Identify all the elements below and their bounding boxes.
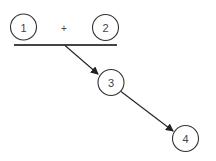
- edge-3-to-4: [121, 92, 173, 132]
- flow-diagram: 1 + 2 3 4: [0, 0, 216, 161]
- node-1: 1: [11, 14, 37, 40]
- node-3-label: 3: [108, 77, 114, 89]
- node-4-label: 4: [182, 133, 188, 145]
- node-3: 3: [98, 70, 124, 96]
- node-4: 4: [173, 126, 199, 152]
- node-2-label: 2: [102, 22, 108, 34]
- plus-operator: +: [61, 23, 67, 34]
- edge-sum-to-3: [65, 46, 98, 75]
- node-2: 2: [93, 15, 119, 41]
- node-1-label: 1: [20, 22, 26, 34]
